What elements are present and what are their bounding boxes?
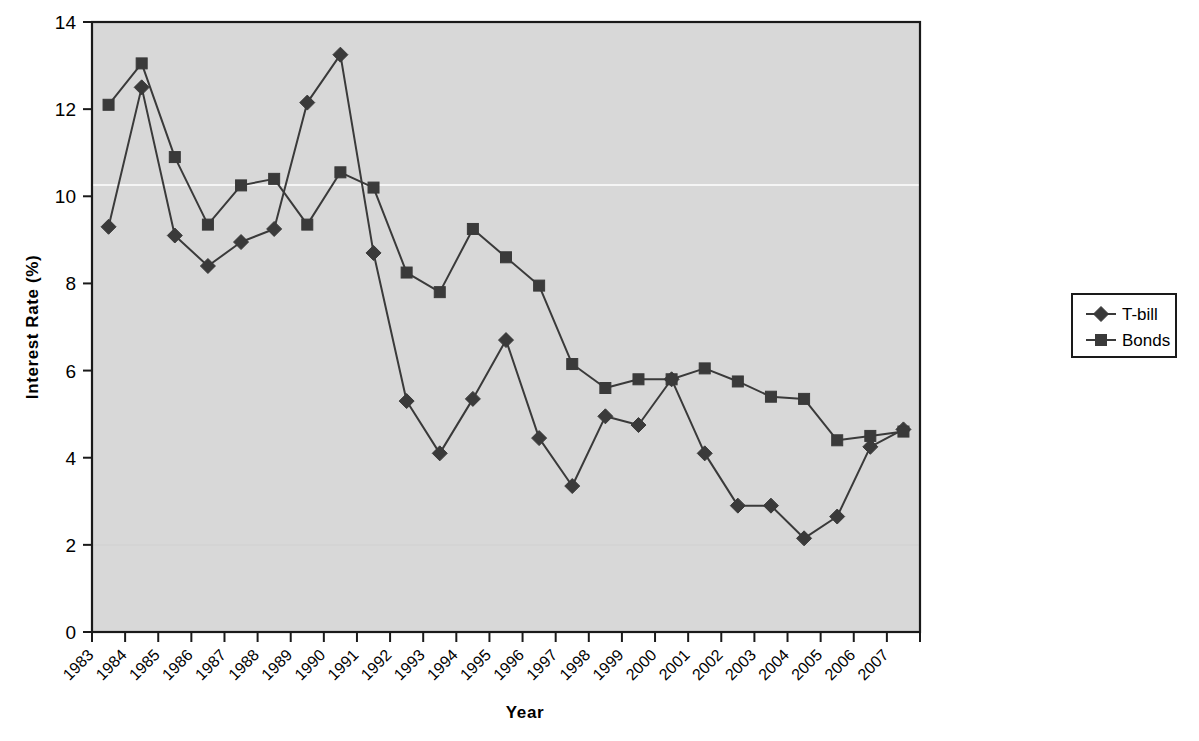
plot-area-background: [92, 22, 920, 632]
square-marker: [666, 374, 677, 385]
x-tick-label: 2006: [821, 646, 858, 683]
x-tick-label: 1988: [225, 646, 262, 683]
x-tick-label: 1986: [159, 646, 196, 683]
x-tick-label: 2000: [623, 646, 660, 683]
x-tick-label: 1983: [59, 646, 96, 683]
square-marker: [832, 435, 843, 446]
x-tick-label: 1990: [291, 646, 328, 683]
x-tick-label: 1984: [93, 646, 130, 683]
square-marker: [103, 99, 114, 110]
x-tick-label: 1987: [192, 646, 229, 683]
square-marker: [600, 383, 611, 394]
square-marker: [732, 376, 743, 387]
y-tick-label: 2: [65, 535, 76, 556]
square-marker: [633, 374, 644, 385]
legend-label-t-bill: T-bill: [1122, 305, 1158, 324]
square-marker: [501, 252, 512, 263]
square-marker: [467, 223, 478, 234]
square-marker: [765, 391, 776, 402]
y-tick-label: 10: [55, 186, 76, 207]
y-axis-title: Interest Rate (%): [23, 255, 42, 399]
x-axis: 1983198419851986198719881989199019911992…: [59, 632, 920, 683]
interest-rate-line-chart: 02468101214 1983198419851986198719881989…: [0, 0, 1199, 741]
square-marker: [534, 280, 545, 291]
x-tick-label: 2002: [689, 646, 726, 683]
y-tick-label: 6: [65, 361, 76, 382]
square-marker: [236, 180, 247, 191]
x-tick-label: 2001: [656, 646, 693, 683]
square-marker: [898, 426, 909, 437]
x-tick-label: 1993: [391, 646, 428, 683]
square-marker: [202, 219, 213, 230]
x-tick-label: 1999: [589, 646, 626, 683]
legend-label-bonds: Bonds: [1122, 331, 1170, 350]
x-tick-label: 1994: [424, 646, 461, 683]
y-axis: 02468101214: [55, 12, 92, 643]
y-tick-label: 12: [55, 99, 76, 120]
square-marker: [269, 173, 280, 184]
square-marker: [434, 287, 445, 298]
square-marker: [335, 167, 346, 178]
square-marker: [799, 393, 810, 404]
square-marker: [368, 182, 379, 193]
x-tick-label: 1998: [556, 646, 593, 683]
square-marker: [136, 58, 147, 69]
x-tick-label: 1997: [523, 646, 560, 683]
square-marker: [302, 219, 313, 230]
square-marker: [401, 267, 412, 278]
square-marker: [567, 359, 578, 370]
legend-square-marker: [1096, 335, 1107, 346]
x-axis-title: Year: [506, 703, 544, 722]
square-marker: [169, 152, 180, 163]
x-tick-label: 2007: [854, 646, 891, 683]
x-tick-label: 2004: [755, 646, 792, 683]
x-tick-label: 1985: [126, 646, 163, 683]
x-tick-label: 1991: [324, 646, 361, 683]
x-tick-label: 2005: [788, 646, 825, 683]
chart-canvas: 02468101214 1983198419851986198719881989…: [0, 0, 1199, 741]
x-tick-label: 1996: [490, 646, 527, 683]
chart-legend[interactable]: T-billBonds: [1072, 294, 1176, 357]
y-tick-label: 8: [65, 273, 76, 294]
x-tick-label: 1989: [258, 646, 295, 683]
x-tick-label: 2003: [722, 646, 759, 683]
x-tick-label: 1992: [358, 646, 395, 683]
y-tick-label: 0: [65, 622, 76, 643]
y-tick-label: 14: [55, 12, 77, 33]
square-marker: [699, 363, 710, 374]
square-marker: [865, 430, 876, 441]
x-tick-label: 1995: [457, 646, 494, 683]
y-tick-label: 4: [65, 448, 76, 469]
